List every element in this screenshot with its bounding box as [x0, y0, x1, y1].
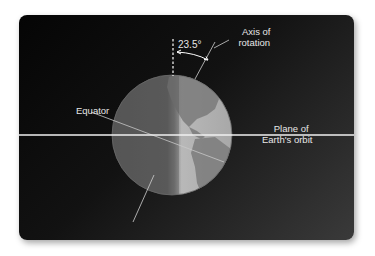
- tilt-angle-arc: [177, 52, 208, 60]
- axis-of-rotation-label: Axis of rotation: [238, 26, 271, 48]
- orbit-plane-label: Plane of Earth's orbit: [262, 123, 312, 145]
- orbit-label-line2: Earth's orbit: [262, 134, 312, 145]
- equator-label: Equator: [76, 105, 109, 116]
- axis-label-line1: Axis of: [238, 26, 271, 37]
- diagram-panel: 23.5° Axis of rotation Equator Plane of …: [19, 15, 354, 240]
- axis-label-leader: [214, 40, 229, 48]
- axis-label-line2: rotation: [238, 37, 271, 48]
- tilt-angle-label: 23.5°: [178, 39, 201, 50]
- orbit-label-line1: Plane of: [262, 123, 312, 134]
